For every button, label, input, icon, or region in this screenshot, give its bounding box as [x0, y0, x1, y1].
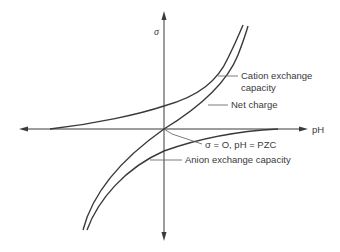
axes [19, 11, 308, 241]
pzc-leader-line [164, 129, 202, 144]
cation-exchange-capacity-curve [50, 25, 243, 129]
x-axis-label: pH [312, 124, 324, 135]
pzc-label: σ = O, pH = PZC [205, 139, 276, 150]
diagram-canvas: σ pH Cation exchange capacity Net charge… [0, 0, 340, 252]
x-axis-left-arrow-icon [19, 127, 28, 132]
charge-ph-diagram: σ pH Cation exchange capacity Net charge… [0, 0, 340, 252]
cation-label-line2: capacity [241, 82, 276, 93]
cation-label-line1: Cation exchange [241, 70, 312, 81]
y-axis-label: σ [154, 26, 160, 37]
y-axis-down-arrow-icon [162, 232, 167, 241]
net-charge-label: Net charge [231, 99, 277, 110]
x-axis-right-arrow-icon [299, 127, 308, 132]
net-charge-curve [83, 26, 248, 230]
anion-label: Anion exchange capacity [185, 154, 291, 165]
y-axis-up-arrow-icon [162, 11, 167, 20]
